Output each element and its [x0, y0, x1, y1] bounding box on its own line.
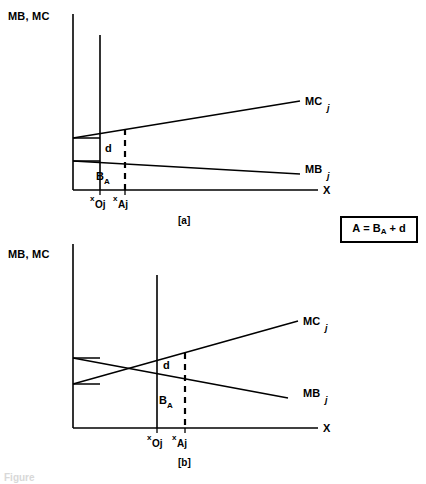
panel-b-mb-sublabel: j — [324, 395, 328, 405]
panel-a-mc-label: MC — [305, 95, 322, 107]
panel-a-benefit-label: B — [96, 170, 104, 182]
panel-b-tick-label-xoj-sub: Oj — [152, 438, 163, 449]
panel-a-mc-curve — [73, 101, 300, 138]
panel-a-mb-label: MB — [305, 163, 322, 175]
panel-b-gap-label: d — [163, 359, 170, 371]
panel-a-x-axis-label: X — [323, 184, 331, 196]
panel-b-mb-label: MB — [303, 387, 320, 399]
figure-footnote: Figure — [4, 472, 35, 483]
panel-a-mb-sublabel: j — [326, 171, 330, 181]
panel-a-benefit-sublabel: A — [104, 177, 110, 186]
panel-b-mc-label: MC — [303, 315, 320, 327]
equation-term2: + d — [389, 222, 405, 234]
equation-term1: B — [373, 222, 381, 234]
panel-a-y-axis-label: MB, MC — [8, 10, 50, 22]
panel-a-tick-label-xoj-sub: Oj — [95, 199, 106, 210]
panel-b-x-axis-label: X — [323, 422, 331, 434]
panel-a-mb-curve — [73, 161, 300, 174]
equation-term1-sub: A — [381, 227, 387, 236]
chart-panel-a: MB, MC X MC j MB j d B A x Oj x Aj [a] — [0, 0, 426, 242]
panel-b-benefit-sublabel: A — [167, 401, 173, 410]
panel-b-y-axis-label: MB, MC — [8, 248, 50, 260]
panel-b-benefit-label: B — [159, 394, 167, 406]
panel-b-mb-curve — [73, 358, 288, 398]
panel-a-caption: [a] — [178, 215, 190, 226]
equation-box: A=BA+ d — [340, 216, 418, 243]
equation-text: A=BA+ d — [352, 223, 405, 236]
figure-container: MB, MC X MC j MB j d B A x Oj x Aj [a] — [0, 0, 426, 484]
panel-b-mc-curve — [73, 321, 298, 384]
panel-b-mc-sublabel: j — [324, 323, 328, 333]
panel-a-mc-sublabel: j — [326, 103, 330, 113]
panel-b-caption: [b] — [178, 457, 191, 468]
equation-operator: = — [363, 222, 369, 234]
chart-panel-b: MB, MC X MC j MB j d B A x Oj x Aj [b] — [0, 242, 426, 484]
equation-lhs: A — [352, 222, 360, 234]
panel-a-gap-label: d — [105, 142, 112, 154]
panel-a-tick-label-xaj-sub: Aj — [118, 199, 128, 210]
panel-b-tick-label-xaj-sub: Aj — [177, 438, 187, 449]
